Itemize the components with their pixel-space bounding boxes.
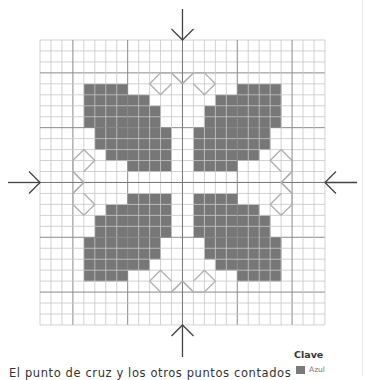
- filled-cell: [259, 248, 270, 259]
- filled-cell: [237, 95, 248, 106]
- filled-cell: [161, 215, 172, 226]
- filled-cell: [84, 248, 95, 259]
- backstitch-outline: [73, 182, 84, 215]
- filled-cell: [215, 106, 226, 117]
- filled-cell: [226, 226, 237, 237]
- filled-cell: [150, 237, 161, 248]
- filled-cell: [161, 139, 172, 150]
- arrow-right-icon: [8, 171, 40, 193]
- filled-cell: [193, 128, 204, 139]
- filled-cell: [117, 84, 128, 95]
- filled-cell: [215, 204, 226, 215]
- filled-cell: [259, 106, 270, 117]
- filled-cell: [270, 106, 281, 117]
- filled-cell: [106, 237, 117, 248]
- filled-cell: [226, 193, 237, 204]
- filled-cell: [95, 226, 106, 237]
- filled-cell: [128, 237, 139, 248]
- filled-cell: [204, 193, 215, 204]
- filled-cell: [259, 117, 270, 128]
- filled-cell: [161, 161, 172, 172]
- filled-cell: [150, 117, 161, 128]
- filled-cell: [237, 204, 248, 215]
- filled-cell: [248, 117, 259, 128]
- filled-cell: [237, 237, 248, 248]
- filled-cell: [193, 204, 204, 215]
- filled-cell: [226, 139, 237, 150]
- filled-cell: [237, 117, 248, 128]
- filled-cell: [204, 215, 215, 226]
- filled-cell: [204, 117, 215, 128]
- filled-cell: [237, 270, 248, 281]
- caption-text: El punto de cruz y los otros puntos cont…: [9, 366, 291, 380]
- filled-cell: [117, 248, 128, 259]
- filled-cell: [117, 204, 128, 215]
- filled-cell: [215, 150, 226, 161]
- filled-cell: [117, 226, 128, 237]
- filled-cell: [95, 270, 106, 281]
- filled-cell: [259, 226, 270, 237]
- filled-cell: [204, 204, 215, 215]
- filled-cell: [226, 248, 237, 259]
- filled-cell: [150, 226, 161, 237]
- filled-cell: [161, 150, 172, 161]
- filled-cell: [193, 150, 204, 161]
- arrow-down-icon: [171, 9, 193, 40]
- filled-cell: [139, 226, 150, 237]
- filled-cell: [128, 117, 139, 128]
- filled-cell: [204, 161, 215, 172]
- filled-cell: [248, 84, 259, 95]
- filled-cell: [117, 139, 128, 150]
- filled-cell: [259, 215, 270, 226]
- filled-cell: [215, 117, 226, 128]
- legend-item-azul: Azul: [296, 365, 325, 374]
- filled-cell: [95, 215, 106, 226]
- filled-cell: [226, 237, 237, 248]
- filled-cell: [215, 161, 226, 172]
- filled-cell: [259, 84, 270, 95]
- filled-cell: [237, 215, 248, 226]
- filled-cell: [106, 204, 117, 215]
- filled-cell: [248, 204, 259, 215]
- filled-cell: [84, 117, 95, 128]
- filled-cell: [106, 150, 117, 161]
- filled-cell: [106, 259, 117, 270]
- filled-cell: [204, 237, 215, 248]
- filled-cell: [128, 128, 139, 139]
- filled-cell: [226, 128, 237, 139]
- filled-cell: [259, 139, 270, 150]
- filled-cell: [117, 106, 128, 117]
- filled-cell: [248, 128, 259, 139]
- filled-cell: [95, 237, 106, 248]
- filled-cell: [139, 128, 150, 139]
- filled-cell: [226, 204, 237, 215]
- filled-cell: [259, 128, 270, 139]
- filled-cell: [84, 237, 95, 248]
- filled-cell: [150, 139, 161, 150]
- filled-cell: [106, 139, 117, 150]
- filled-cell: [193, 193, 204, 204]
- filled-cell: [270, 248, 281, 259]
- filled-cell: [259, 270, 270, 281]
- filled-cell: [248, 270, 259, 281]
- filled-cell: [106, 106, 117, 117]
- filled-cell: [150, 106, 161, 117]
- filled-cell: [226, 161, 237, 172]
- filled-cell: [150, 128, 161, 139]
- filled-cell: [117, 128, 128, 139]
- filled-cell: [139, 106, 150, 117]
- filled-cell: [117, 117, 128, 128]
- filled-cell: [226, 259, 237, 270]
- filled-cell: [128, 106, 139, 117]
- filled-cell: [270, 84, 281, 95]
- filled-cell: [150, 150, 161, 161]
- filled-cell: [139, 215, 150, 226]
- filled-cell: [128, 161, 139, 172]
- filled-cell: [248, 95, 259, 106]
- filled-cell: [248, 259, 259, 270]
- filled-cell: [248, 226, 259, 237]
- filled-cell: [139, 139, 150, 150]
- filled-cell: [95, 84, 106, 95]
- filled-cell: [226, 95, 237, 106]
- filled-cell: [117, 95, 128, 106]
